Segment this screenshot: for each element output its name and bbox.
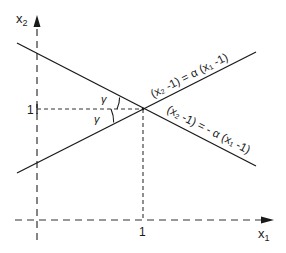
y-axis xyxy=(34,15,41,240)
positive-line-equation: (x₂ -1) = α (x₁ -1) xyxy=(148,51,229,100)
gamma-label-upper: γ xyxy=(101,93,108,105)
x-axis xyxy=(15,217,274,224)
svg-text:x1: x1 xyxy=(258,226,270,243)
x-tick-label: 1 xyxy=(139,225,146,239)
positive-slope-line xyxy=(17,52,256,173)
x-axis-arrow-icon xyxy=(261,217,274,224)
y-tick-label: 1 xyxy=(27,103,34,117)
angle-arc-lower xyxy=(111,109,114,123)
x-axis-label: x1 xyxy=(258,226,270,243)
gamma-label-lower: γ xyxy=(94,113,101,125)
negative-line-equation: (x₂ -1) = - α (x₁ -1) xyxy=(165,103,252,156)
y-axis-label: x2 xyxy=(16,11,28,28)
svg-text:x2: x2 xyxy=(16,11,28,28)
y-axis-arrow-icon xyxy=(34,15,41,27)
diagram-canvas: γ γ x2 x1 1 1 (x₂ -1) = α (x₁ -1) (x₂ -1… xyxy=(0,0,286,253)
intersection-point xyxy=(142,108,145,111)
angle-arc-upper xyxy=(117,98,120,109)
